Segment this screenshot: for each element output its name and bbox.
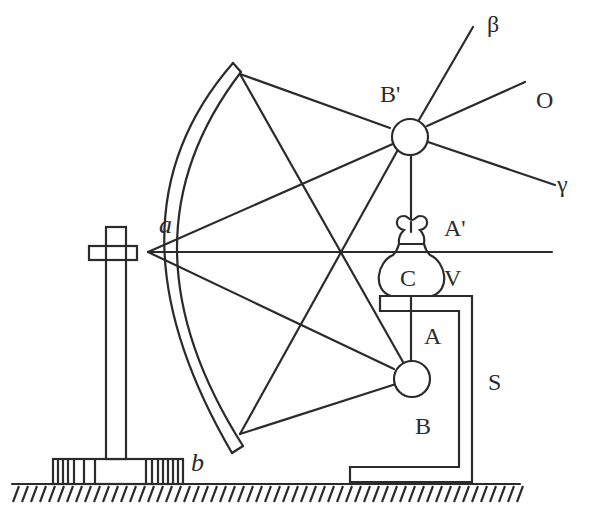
hatch-mark	[319, 486, 325, 502]
label-a: A	[424, 323, 442, 349]
ray-top-to-b	[240, 74, 403, 362]
hatch-mark	[103, 486, 109, 502]
hatch-mark	[148, 486, 154, 502]
hatch-mark	[238, 486, 244, 502]
hatch-mark	[364, 486, 370, 502]
hatch-mark	[13, 486, 19, 502]
hatch-mark	[58, 486, 64, 502]
hatch-mark	[508, 486, 514, 502]
label-beta: β	[487, 11, 499, 37]
ground	[12, 484, 523, 502]
hatch-mark	[400, 486, 406, 502]
hatch-mark	[391, 486, 397, 502]
hatch-mark	[301, 486, 307, 502]
hatch-mark	[67, 486, 73, 502]
hatch-mark	[463, 486, 469, 502]
label-bprime: B'	[380, 81, 400, 107]
hatch-mark	[454, 486, 460, 502]
hatch-mark	[328, 486, 334, 502]
hatch-mark	[274, 486, 280, 502]
post-clamp	[89, 246, 137, 260]
hatch-mark	[310, 486, 316, 502]
sphere-bprime	[392, 119, 428, 155]
hatch-mark	[202, 486, 208, 502]
hatch-mark	[283, 486, 289, 502]
hatch-mark	[445, 486, 451, 502]
label-b-mirror-edge: b	[191, 448, 204, 477]
hatch-mark	[94, 486, 100, 502]
hatch-mark	[409, 486, 415, 502]
hatch-mark	[130, 486, 136, 502]
hatch-mark	[355, 486, 361, 502]
hatch-mark	[256, 486, 262, 502]
hatch-mark	[229, 486, 235, 502]
hatch-mark	[373, 486, 379, 502]
ground-hatching	[13, 486, 523, 502]
hatch-mark	[436, 486, 442, 502]
mirror-inner-arc	[177, 72, 243, 446]
hatch-mark	[193, 486, 199, 502]
stand-base	[53, 459, 183, 484]
label-o: O	[536, 87, 553, 113]
hatch-mark	[427, 486, 433, 502]
hatch-mark	[481, 486, 487, 502]
label-v: V	[444, 265, 462, 291]
curved-mirror	[164, 63, 243, 453]
hatch-mark	[49, 486, 55, 502]
hatch-mark	[265, 486, 271, 502]
hatch-mark	[40, 486, 46, 502]
hatch-mark	[499, 486, 505, 502]
hatch-mark	[337, 486, 343, 502]
hatch-mark	[472, 486, 478, 502]
hatch-mark	[157, 486, 163, 502]
label-aprime: A'	[444, 215, 466, 241]
hatch-mark	[220, 486, 226, 502]
label-a-mirror-point: a	[159, 210, 172, 239]
hatch-mark	[490, 486, 496, 502]
hatch-mark	[76, 486, 82, 502]
mirror-top-cap	[233, 63, 241, 72]
ray-top-to-bprime	[240, 74, 390, 128]
ray-o	[427, 82, 525, 126]
hatch-mark	[247, 486, 253, 502]
mirror-bottom-cap	[232, 446, 243, 453]
vertical-post	[106, 227, 126, 459]
ray-beta	[419, 27, 473, 120]
hatch-mark	[166, 486, 172, 502]
mirror-outer-arc	[164, 63, 233, 453]
label-s: S	[488, 369, 501, 395]
hatch-mark	[139, 486, 145, 502]
label-b: B	[415, 413, 431, 439]
ray-a-to-bprime	[148, 143, 395, 252]
hatch-mark	[22, 486, 28, 502]
hatch-mark	[517, 486, 523, 502]
hatch-mark	[346, 486, 352, 502]
hatch-mark	[121, 486, 127, 502]
label-gamma: γ	[556, 171, 568, 197]
hatch-mark	[85, 486, 91, 502]
hatch-mark	[292, 486, 298, 502]
ray-gamma	[428, 142, 555, 185]
apparatus-diagram: β O γ B' A' C V A S B a b	[0, 0, 591, 528]
hatch-mark	[211, 486, 217, 502]
hatch-mark	[382, 486, 388, 502]
hatch-mark	[184, 486, 190, 502]
label-c: C	[400, 265, 416, 291]
hatch-mark	[112, 486, 118, 502]
hatch-mark	[31, 486, 37, 502]
hatch-mark	[175, 486, 181, 502]
hatch-mark	[418, 486, 424, 502]
sphere-b	[394, 361, 430, 397]
